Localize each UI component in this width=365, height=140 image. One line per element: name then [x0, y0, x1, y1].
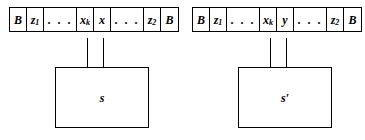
state-label-after: s′	[281, 92, 289, 104]
tape-cell-after-7: B	[344, 8, 361, 31]
tape-cell-symbol: B	[165, 14, 173, 26]
state-label-before: s	[100, 92, 105, 104]
read-write-head-before	[87, 38, 104, 68]
tape-cell-before-1: z1	[27, 8, 44, 31]
tape-cell-after-1: z1	[210, 8, 227, 31]
tape-cell-symbol: . . .	[48, 14, 73, 26]
tape-cell-after-6: z2	[327, 8, 344, 31]
tape-cell-after-5: . . .	[294, 8, 327, 31]
tape-cell-after-4: y	[277, 8, 294, 31]
tape-cell-after-0: B	[193, 8, 210, 31]
tape-cell-symbol: . . .	[115, 14, 140, 26]
tape-cell-subscript: 1	[218, 19, 222, 27]
tape-cell-symbol: B	[14, 14, 22, 26]
tape-cell-symbol: . . .	[298, 14, 323, 26]
state-box-after: s′	[238, 67, 332, 128]
tape-cell-after-2: . . .	[227, 8, 260, 31]
tape-cell-before-6: z2	[144, 8, 161, 31]
tape-cell-subscript: 2	[152, 19, 156, 27]
tape-cell-subscript: 2	[335, 19, 339, 27]
tape-cell-symbol: . . .	[231, 14, 256, 26]
tape-cell-after-3: xk	[260, 8, 277, 31]
tape-cell-subscript: k	[86, 19, 90, 27]
tape-cell-symbol: x	[99, 14, 105, 26]
tape-cell-before-0: B	[10, 8, 27, 31]
tape-after: Bz1. . .xky. . .z2B	[192, 7, 362, 32]
tape-cell-before-3: xk	[77, 8, 94, 31]
tape-cell-symbol: B	[197, 14, 205, 26]
turing-machine-transition-figure: Bz1. . .xkx. . .z2B s Bz1. . .xky. . .z2…	[0, 0, 365, 140]
tape-cell-before-4: x	[94, 8, 111, 31]
read-write-head-after	[270, 38, 287, 68]
tape-cell-before-5: . . .	[111, 8, 144, 31]
tape-cell-symbol: y	[282, 14, 287, 26]
tape-cell-before-7: B	[161, 8, 178, 31]
tape-cell-symbol: B	[348, 14, 356, 26]
tape-cell-subscript: 1	[35, 19, 39, 27]
state-box-before: s	[55, 67, 149, 128]
tape-cell-before-2: . . .	[44, 8, 77, 31]
tape-cell-subscript: k	[269, 19, 273, 27]
tape-before: Bz1. . .xkx. . .z2B	[9, 7, 179, 32]
